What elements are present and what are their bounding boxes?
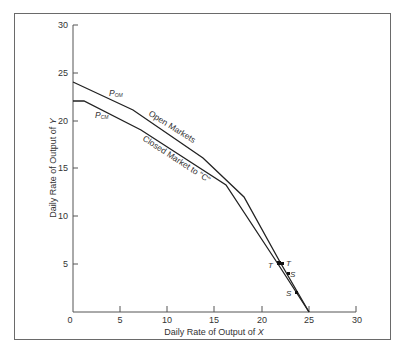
closed-market-label: Closed Market to "C" [141, 133, 213, 184]
t-label-open: T [286, 259, 292, 268]
x-tick-label-25: 25 [304, 315, 314, 325]
s-label-closed: S [286, 289, 292, 298]
x-tick-label-30: 30 [352, 315, 362, 325]
points: T T S S [268, 259, 298, 298]
y-tick-label-15: 15 [58, 163, 68, 173]
y-axis-title: Daily Rate of Output of Y [48, 117, 58, 218]
y-tick-label-5: 5 [63, 259, 68, 269]
y-tick-label-20: 20 [58, 116, 68, 126]
x-tick-label-20: 20 [257, 315, 267, 325]
x-tick-label-5: 5 [117, 315, 122, 325]
s-label-open: S [290, 270, 296, 279]
p-om-label: POM [109, 88, 124, 98]
x-tick-label-0: 0 [67, 315, 72, 325]
t-point-open [281, 262, 284, 265]
x-axis-title: Daily Rate of Output of X [164, 327, 265, 337]
y-tick-label-25: 25 [58, 68, 68, 78]
y-tick-label-10: 10 [58, 211, 68, 221]
t-point-closed [277, 261, 281, 265]
p-cm-label: PCM [95, 110, 109, 120]
x-tick-label-10: 10 [162, 315, 172, 325]
t-label-closed: T [268, 261, 274, 270]
y-ticks: 30 25 20 15 10 5 [58, 20, 78, 269]
chart-svg: 30 25 20 15 10 5 0 5 10 15 20 25 30 Dail… [0, 0, 401, 350]
x-tick-label-15: 15 [209, 315, 219, 325]
x-ticks: 0 5 10 15 20 25 30 [67, 306, 362, 325]
y-tick-label-30: 30 [58, 20, 68, 30]
s-point-closed [295, 291, 298, 294]
